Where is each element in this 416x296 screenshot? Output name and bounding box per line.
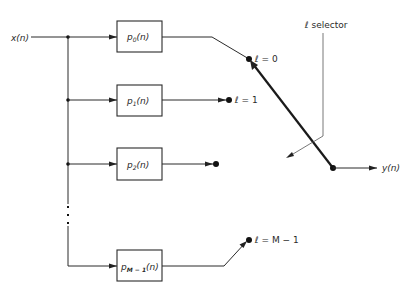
arrow-icon [109,98,117,103]
switch-label-M-1: ℓ = M − 1 [254,235,299,245]
output-line-pM-1 [162,242,246,266]
selector-label: ℓ selector [304,20,348,30]
arrow-icon [286,152,294,158]
svg-text:p1(n): p1(n) [126,96,149,107]
switch-contact-2 [213,161,219,167]
switch-contact-1 [226,97,232,103]
filter-box-p0: p0(n) [117,21,162,52]
selector-leader [288,33,323,157]
bus-ellipsis [67,206,69,224]
filter-box-pM-1: pM − 1(n) [117,250,162,281]
filter-box-p2: p2(n) [117,148,162,180]
filter-box-p1: p1(n) [117,85,162,116]
svg-text:p2(n): p2(n) [126,160,149,171]
arrow-icon [109,35,117,40]
arrow-icon [109,264,117,269]
switch-label-0: ℓ = 0 [254,54,278,64]
output-label: y(n) [381,163,400,173]
svg-text:p0(n): p0(n) [126,32,149,43]
output-line-p0 [162,37,249,59]
commutator-arm [253,64,333,168]
arrow-icon [109,162,117,167]
switch-label-1: ℓ = 1 [234,95,258,105]
switch-contact-M-1 [246,237,252,243]
input-label: x(n) [10,33,29,43]
polyphase-diagram: x(n) p0(n) p1(n) p2(n) pM − 1(n) ℓ = 0 ℓ… [0,0,416,296]
